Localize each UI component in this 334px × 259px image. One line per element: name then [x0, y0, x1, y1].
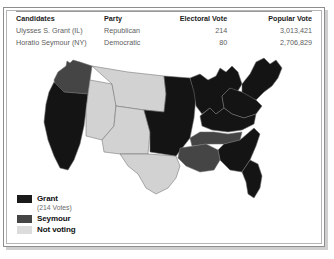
cell-electoral-vote: 80: [165, 37, 246, 48]
us-election-map: [4, 48, 322, 208]
legend-item-grant: Grant: [17, 193, 137, 204]
legend-swatch-seymour: [17, 215, 32, 223]
legend-label-seymour: Seymour: [37, 214, 71, 223]
legend-swatch-not-voting: [17, 226, 32, 234]
legend-item-seymour: Seymour: [17, 213, 137, 224]
map-legend: Grant (214 Votes) Seymour Not voting: [17, 193, 137, 235]
header-electoral-vote: Electoral Vote: [165, 13, 246, 26]
table-row: Ulysses S. Grant (IL) Republican 214 3,0…: [16, 26, 312, 37]
header-popular-vote: Popular Vote: [245, 13, 312, 26]
map-region-california: [44, 82, 88, 170]
table-top-rule: [16, 11, 312, 12]
legend-label-grant: Grant: [37, 194, 58, 203]
legend-item-not-voting: Not voting: [17, 224, 137, 235]
cell-party: Democratic: [104, 37, 165, 48]
cell-candidate-name: Horatio Seymour (NY): [16, 37, 104, 48]
cell-party: Republican: [104, 26, 165, 37]
legend-sublabel-grant-votes: (214 Votes): [37, 204, 137, 213]
header-candidates: Candidates: [16, 13, 104, 26]
map-region-texas: [120, 154, 180, 194]
legend-label-not-voting: Not voting: [37, 225, 76, 234]
figure-frame: Candidates Party Electoral Vote Popular …: [3, 7, 325, 247]
table-header-row: Candidates Party Electoral Vote Popular …: [16, 13, 312, 26]
header-party: Party: [104, 13, 165, 26]
map-region-northeast: [242, 58, 282, 100]
cell-popular-vote: 3,013,421: [245, 26, 312, 37]
cell-electoral-vote: 214: [165, 26, 246, 37]
cell-candidate-name: Ulysses S. Grant (IL): [16, 26, 104, 37]
legend-swatch-grant: [17, 195, 32, 203]
map-region-gulf-coast: [178, 144, 220, 172]
election-results-table: Candidates Party Electoral Vote Popular …: [16, 13, 312, 49]
table-row: Horatio Seymour (NY) Democratic 80 2,706…: [16, 37, 312, 48]
cell-popular-vote: 2,706,829: [245, 37, 312, 48]
us-map-svg: [4, 48, 322, 208]
